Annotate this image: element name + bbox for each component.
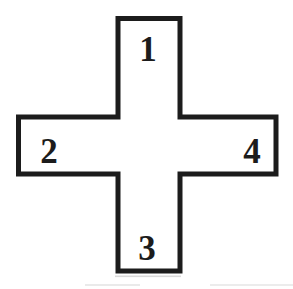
scan-artifact-streak xyxy=(85,284,140,286)
arm-label-right: 4 xyxy=(243,132,261,171)
arm-label-bottom: 3 xyxy=(138,229,156,268)
arm-label-left: 2 xyxy=(40,132,58,171)
arm-label-top: 1 xyxy=(139,30,157,69)
scan-artifact-streak xyxy=(115,276,181,278)
cross-diagram-svg: 1 2 3 4 xyxy=(0,0,293,289)
scan-artifact-streak xyxy=(210,284,293,286)
cross-diagram: 1 2 3 4 xyxy=(0,0,293,289)
